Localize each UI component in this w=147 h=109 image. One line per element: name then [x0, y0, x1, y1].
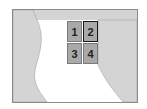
map-frame[interactable]: 1 2 3 4	[12, 9, 138, 103]
tile-4[interactable]: 4	[83, 43, 98, 64]
tile-3[interactable]: 3	[67, 43, 82, 64]
tile-grid: 1 2 3 4	[67, 21, 99, 65]
tile-1[interactable]: 1	[67, 21, 82, 42]
tile-2[interactable]: 2	[83, 21, 98, 42]
